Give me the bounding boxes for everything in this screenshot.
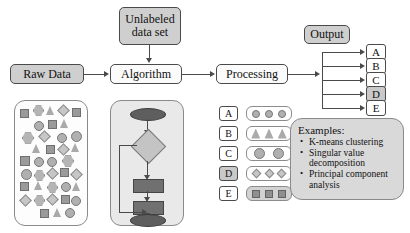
raw-shape-circle	[61, 182, 71, 192]
raw-shape-hexagon	[22, 132, 34, 144]
legend-swatch-d	[246, 166, 292, 181]
arrowhead-output-b	[360, 63, 365, 69]
connector-unlabeled-to-algorithm	[149, 45, 150, 58]
node-output-label: Output	[310, 28, 343, 41]
legend-triangle-icon	[265, 129, 274, 139]
legend-triangle-icon	[278, 129, 287, 139]
raw-shape-square	[72, 108, 81, 117]
examples-title: Examples:	[298, 124, 397, 136]
flowchart-loop-horizontal-top	[119, 145, 137, 146]
raw-shape-circle	[71, 196, 81, 206]
connector-bus-to-output-d	[322, 94, 360, 95]
connector-rawdata-to-algorithm	[84, 74, 104, 75]
output-box-c-label: C	[372, 74, 379, 86]
legend-label-e-text: E	[225, 188, 231, 199]
node-algorithm[interactable]: Algorithm	[110, 64, 182, 84]
flowchart-step1-node	[133, 179, 164, 193]
legend-label-b[interactable]: B	[219, 126, 238, 141]
legend-swatch-a	[246, 106, 292, 121]
output-box-b-label: B	[372, 60, 379, 72]
legend-label-d[interactable]: D	[219, 166, 238, 181]
raw-shape-diamond	[70, 168, 83, 181]
legend-swatch-b	[246, 126, 292, 141]
raw-shape-hexagon	[62, 155, 74, 167]
legend-swatch-c	[246, 146, 292, 161]
flowchart-loop-vertical	[119, 145, 120, 212]
node-unlabeled-line2: data set	[132, 26, 168, 39]
flowchart-loop-arrow	[142, 209, 147, 215]
raw-shape-triangle	[60, 119, 68, 128]
legend-circle-small-icon	[265, 110, 273, 118]
raw-data-shapes-panel	[14, 100, 88, 226]
arrowhead-output-d	[360, 91, 365, 97]
arrowhead-output-e	[360, 105, 365, 111]
raw-shape-diamond	[46, 193, 59, 206]
connector-processing-to-bus	[288, 74, 315, 75]
raw-shape-hexagon	[34, 195, 45, 206]
legend-square-icon	[252, 190, 260, 198]
examples-list-item: Principal component analysis	[298, 169, 397, 190]
output-box-d-label: D	[372, 88, 380, 100]
raw-shape-circle	[21, 169, 32, 180]
raw-shape-square	[46, 145, 55, 154]
raw-shape-square	[60, 168, 69, 177]
legend-label-d-text: D	[225, 168, 232, 179]
arrowhead-output-c	[360, 77, 365, 83]
raw-shape-square	[40, 209, 49, 218]
raw-shape-diamond	[38, 130, 51, 143]
flowchart-decision-node	[131, 129, 166, 164]
diagram-canvas: Raw Data Unlabeled data set Algorithm Pr…	[0, 0, 410, 233]
connector-bus-to-output-c	[322, 80, 360, 81]
legend-label-a[interactable]: A	[219, 106, 238, 121]
legend-label-c[interactable]: C	[219, 146, 238, 161]
raw-shape-triangle	[46, 106, 54, 115]
node-processing[interactable]: Processing	[216, 64, 288, 84]
arrowhead-algorithm-to-processing	[210, 71, 215, 77]
raw-shape-square	[20, 109, 29, 118]
legend-diamond-icon	[251, 169, 261, 179]
node-processing-label: Processing	[226, 68, 278, 81]
legend-diamond-icon	[264, 169, 274, 179]
legend-circle-large-icon	[273, 148, 284, 159]
raw-shape-circle	[34, 157, 44, 167]
flowchart-line-decision-to-step1	[147, 161, 148, 175]
raw-shape-square	[20, 182, 29, 191]
raw-shape-square	[48, 120, 57, 129]
output-box-a-label: A	[372, 46, 380, 58]
raw-shape-circle	[71, 131, 82, 142]
examples-list-item: Singular value decomposition	[298, 148, 397, 169]
legend-label-e[interactable]: E	[219, 186, 238, 201]
connector-algorithm-to-processing	[182, 74, 210, 75]
legend-diamond-icon	[277, 169, 287, 179]
arrowhead-rawdata-to-algorithm	[104, 71, 109, 77]
raw-shape-hexagon	[34, 170, 45, 181]
connector-bus-to-output-e	[322, 108, 360, 109]
node-unlabeled-data-set[interactable]: Unlabeled data set	[119, 7, 181, 45]
node-raw-data-label: Raw Data	[23, 68, 71, 81]
legend-square-icon	[278, 190, 286, 198]
raw-shape-diamond	[57, 143, 70, 156]
raw-shape-circle	[57, 133, 67, 143]
arrowhead-unlabeled-to-algorithm	[146, 58, 152, 63]
output-box-e[interactable]: E	[366, 100, 386, 116]
examples-list-item: K-means clustering	[298, 137, 397, 148]
raw-shape-triangle	[71, 143, 79, 152]
raw-shape-diamond	[46, 167, 59, 180]
flowchart-end-node	[130, 214, 166, 227]
legend-triangle-icon	[251, 129, 260, 139]
raw-shape-square	[61, 195, 70, 204]
connector-bus-to-output-a	[322, 52, 360, 53]
raw-shape-diamond	[19, 194, 32, 207]
node-output[interactable]: Output	[304, 25, 350, 44]
algorithm-flowchart-panel	[110, 100, 184, 226]
legend-circle-small-icon	[252, 110, 260, 118]
raw-shape-triangle	[34, 181, 42, 190]
examples-box: Examples: K-means clustering Singular va…	[290, 118, 404, 200]
raw-shape-circle	[47, 157, 57, 167]
legend-square-icon	[265, 190, 273, 198]
raw-shape-hexagon	[33, 105, 44, 116]
node-raw-data[interactable]: Raw Data	[10, 64, 84, 84]
raw-shape-triangle	[53, 208, 61, 217]
arrowhead-output-a	[360, 49, 365, 55]
legend-circle-large-icon	[254, 148, 265, 159]
